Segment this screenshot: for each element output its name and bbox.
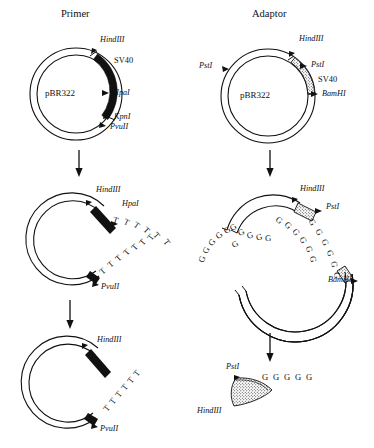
adaptor-step-1-arrow [266, 150, 273, 177]
primer-step-1-arrow [75, 150, 82, 177]
primer-bottom-plasmid [21, 336, 111, 428]
base-G: G [273, 373, 279, 382]
base-G: G [295, 373, 301, 382]
label-hindiii-adaptor-mid: HindIII [300, 185, 325, 193]
label-hindiii-adaptor-top: HindIII [299, 35, 324, 43]
label-psti-left-adaptor-top: PstI [199, 62, 212, 70]
base-G: G [284, 373, 290, 382]
label-hindiii-primer-mid: HindIII [96, 186, 121, 194]
label-psti-adaptor-bottom: PstI [226, 363, 239, 371]
label-psti-adaptor-top: PstI [311, 61, 324, 69]
label-plasmid-adaptor-top: pBR322 [240, 91, 270, 100]
base-G: G [265, 234, 272, 243]
primer-step-2-arrow [66, 300, 73, 329]
figure-canvas: Primer Adaptor [0, 0, 374, 448]
adaptor-mid-plasmid [222, 195, 353, 342]
label-sv40-primer-top: SV40 [114, 57, 133, 65]
label-bamhi-adaptor-top: BamHI [322, 90, 346, 98]
label-pvuii-primer-top: PvuII [110, 123, 128, 131]
psti-pointer-p4 [315, 208, 322, 214]
label-hindiii-adaptor-bottom: HindIII [197, 407, 222, 415]
label-sv40-adaptor-top: SV40 [318, 76, 337, 84]
label-hpai-primer-mid: HpaI [122, 200, 139, 208]
label-psti-adaptor-mid: PstI [326, 203, 339, 211]
label-plasmid-primer-top: pBR322 [45, 89, 75, 98]
label-kpni-primer-top: KpnI [114, 113, 130, 121]
adaptor-bottom-fragment [231, 378, 272, 406]
hpai-pointer-p1 [102, 90, 109, 96]
hindiii-pointer-p4 [292, 197, 298, 203]
label-hpai-primer-top: HpaI [113, 89, 130, 97]
label-hindiii-primer-bottom: HindIII [97, 336, 122, 344]
base-G: G [262, 373, 268, 382]
base-G: G [306, 373, 312, 382]
primer-top-plasmid [30, 48, 122, 140]
label-hindiii-primer-top: HindIII [100, 36, 125, 44]
label-pvuii-primer-bottom: PvuII [100, 425, 118, 433]
base-G: G [333, 272, 342, 279]
label-pvuii-primer-mid: PvuII [101, 283, 119, 291]
bamhi-pointer-p4 [351, 278, 358, 284]
